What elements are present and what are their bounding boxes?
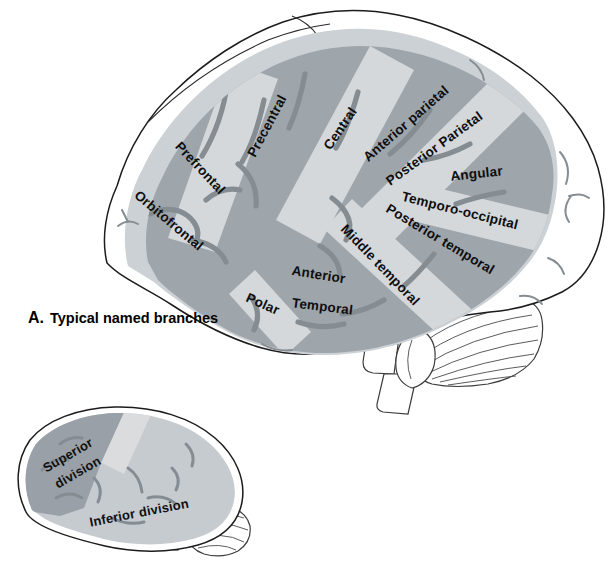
panel-label: A.	[28, 309, 44, 326]
panel-caption: Typical named branches	[50, 310, 218, 326]
large-brain: Orbitofrontal Prefrontal Precentral Cent…	[104, 11, 603, 414]
panel-caption-group: A. Typical named branches	[28, 309, 218, 326]
brain-territories-diagram: Orbitofrontal Prefrontal Precentral Cent…	[0, 0, 609, 561]
figure-canvas: Orbitofrontal Prefrontal Precentral Cent…	[0, 0, 609, 561]
small-brain: Superior division Inferior division	[0, 400, 280, 561]
